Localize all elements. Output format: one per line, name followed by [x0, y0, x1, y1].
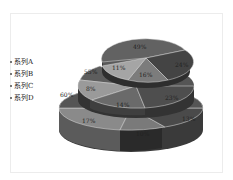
label-top-c: 16%: [139, 71, 153, 78]
label-top-a: 49%: [133, 43, 147, 50]
label-mid-c: 14%: [116, 101, 130, 108]
label-bot-b: 17%: [82, 117, 96, 124]
label-top-d: 11%: [112, 64, 126, 71]
label-bot-d: 13%: [182, 115, 196, 122]
label-mid-d: 23%: [165, 94, 179, 101]
label-bot-c: 10%: [136, 130, 150, 137]
label-top-b: 24%: [175, 61, 189, 68]
label-mid-b: 8%: [86, 85, 96, 92]
pie-chart: 49% 24% 16% 11% 55% 8% 14% 23% 60% 17% 1…: [0, 0, 233, 180]
label-bot-a: 60%: [60, 91, 74, 98]
label-mid-a: 55%: [84, 68, 98, 75]
